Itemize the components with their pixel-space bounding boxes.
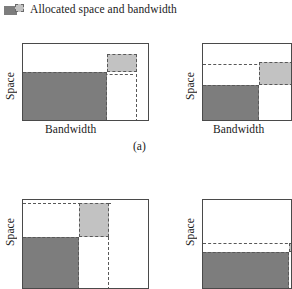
- guide-line-upper: [203, 243, 292, 244]
- panel-top-right-ylabel: Space: [184, 72, 196, 100]
- swatch-light-block: [15, 4, 24, 12]
- allocated-light-block: [289, 243, 292, 252]
- allocated-dark-block: [203, 252, 289, 289]
- legend: Allocated space and bandwidth: [4, 2, 177, 16]
- panel-bottom-right-plot: [202, 199, 292, 289]
- guide-line-right: [136, 74, 137, 121]
- panel-bottom-left-plot: [22, 199, 149, 289]
- panel-top-right: Space Bandwidth: [180, 20, 286, 138]
- allocated-dark-block: [23, 237, 79, 289]
- allocated-light-block: [79, 203, 109, 237]
- panel-bottom-left: Space: [0, 185, 160, 278]
- subfigure-label-a: (a): [133, 140, 146, 152]
- panel-top-right-xlabel: Bandwidth: [213, 123, 264, 135]
- allocated-light-block: [107, 54, 137, 72]
- allocation-swatch-icon: [4, 4, 24, 15]
- legend-label: Allocated space and bandwidth: [30, 3, 177, 16]
- panel-top-right-plot: [202, 43, 292, 121]
- panel-bottom-right-ylabel: Space: [184, 218, 196, 246]
- guide-line-right: [108, 237, 109, 289]
- allocated-dark-block: [203, 85, 259, 120]
- panel-bottom-left-ylabel: Space: [4, 218, 16, 246]
- allocated-light-block: [259, 62, 292, 85]
- panel-top-left-xlabel: Bandwidth: [45, 123, 96, 135]
- panel-top-left-ylabel: Space: [4, 72, 16, 100]
- allocated-dark-block: [23, 72, 107, 120]
- panel-top-left: Space Bandwidth: [0, 20, 160, 138]
- guide-line-right: [291, 252, 292, 289]
- panel-top-left-plot: [22, 43, 149, 121]
- panel-bottom-right: Space: [180, 185, 286, 278]
